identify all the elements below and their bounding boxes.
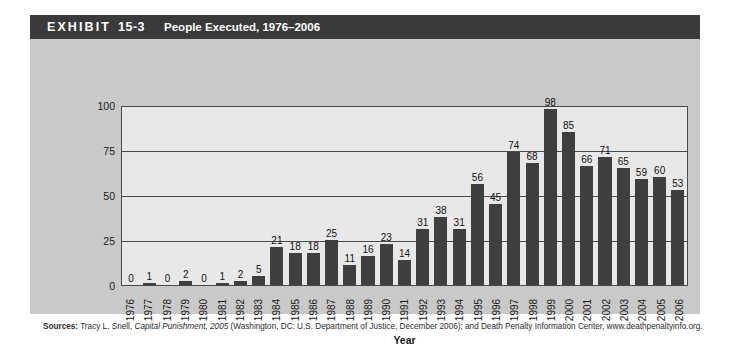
exhibit-number: 15-3 [118, 20, 145, 34]
bar[interactable] [398, 260, 411, 285]
y-axis-ticks: 0255075100 [85, 106, 115, 286]
bar[interactable] [453, 229, 466, 285]
bar[interactable] [270, 247, 283, 285]
bar-value-label: 14 [399, 248, 410, 259]
bar[interactable] [507, 152, 520, 285]
bar-slot: 0 [122, 107, 140, 285]
bar-slot: 1 [140, 107, 158, 285]
bar-slot: 2 [177, 107, 195, 285]
bar[interactable] [562, 132, 575, 285]
bar[interactable] [307, 253, 320, 285]
bar[interactable] [635, 179, 648, 285]
bar-slot: 60 [651, 107, 669, 285]
bar[interactable] [653, 177, 666, 285]
bar-value-label: 66 [581, 154, 592, 165]
bar-value-label: 23 [381, 232, 392, 243]
bar-value-label: 65 [618, 156, 629, 167]
bar-value-label: 85 [563, 120, 574, 131]
bar-slot: 71 [596, 107, 614, 285]
bar-slot: 23 [377, 107, 395, 285]
bar[interactable] [434, 217, 447, 285]
bar-value-label: 0 [128, 273, 134, 284]
bar-value-label: 18 [308, 241, 319, 252]
bar[interactable] [526, 163, 539, 285]
exhibit-header-bar: EXHIBIT 15-3 People Executed, 1976–2006 [30, 15, 700, 39]
bar-slot: 16 [359, 107, 377, 285]
plot-area: 0102012521181825111623143138315645746898… [121, 106, 688, 286]
source-text-after: (Washington, DC: U.S. Department of Just… [228, 322, 702, 331]
bar-slot: 21 [268, 107, 286, 285]
bar[interactable] [289, 253, 302, 285]
bar-value-label: 1 [219, 271, 225, 282]
bar[interactable] [544, 109, 557, 285]
y-tick-label: 100 [85, 100, 115, 112]
figure-panel: Number of executions 0255075100 01020125… [30, 39, 700, 314]
bar[interactable] [671, 190, 684, 285]
bar-value-label: 0 [165, 273, 171, 284]
exhibit-title: People Executed, 1976–2006 [164, 21, 320, 33]
bar-chart: Number of executions 0255075100 01020125… [73, 106, 690, 351]
bar-value-label: 1 [147, 271, 153, 282]
bar-slot: 31 [414, 107, 432, 285]
y-tick-label: 50 [85, 190, 115, 202]
bar[interactable] [489, 204, 502, 285]
bar-slot: 2 [231, 107, 249, 285]
bar-value-label: 45 [490, 192, 501, 203]
bar-value-label: 71 [599, 145, 610, 156]
source-label: Sources: [43, 322, 78, 331]
bar-slot: 45 [487, 107, 505, 285]
bar-slot: 18 [286, 107, 304, 285]
bar-slot: 68 [523, 107, 541, 285]
bar[interactable] [343, 265, 356, 285]
bar-value-label: 59 [636, 167, 647, 178]
bar[interactable] [580, 166, 593, 285]
bar[interactable] [234, 281, 247, 285]
bar-slot: 14 [395, 107, 413, 285]
bar-slot: 56 [468, 107, 486, 285]
bar[interactable] [143, 283, 156, 285]
bar-value-label: 56 [472, 172, 483, 183]
bar[interactable] [416, 229, 429, 285]
source-text-before: Tracy L. Snell, [78, 322, 134, 331]
bar-value-label: 18 [290, 241, 301, 252]
bar-slot: 5 [250, 107, 268, 285]
x-axis-title: Year [121, 334, 688, 346]
bar-value-label: 38 [435, 205, 446, 216]
bar[interactable] [617, 168, 630, 285]
bar-slot: 0 [158, 107, 176, 285]
bar-slot: 98 [541, 107, 559, 285]
bars-layer: 0102012521181825111623143138315645746898… [122, 107, 687, 285]
y-tick-label: 0 [85, 280, 115, 292]
bar-value-label: 53 [672, 178, 683, 189]
y-tick-label: 75 [85, 145, 115, 157]
bar[interactable] [216, 283, 229, 285]
exhibit-label: EXHIBIT [47, 20, 111, 34]
bar-slot: 1 [213, 107, 231, 285]
bar-value-label: 68 [527, 151, 538, 162]
bar-value-label: 0 [201, 273, 207, 284]
bar[interactable] [361, 256, 374, 285]
bar-value-label: 16 [362, 244, 373, 255]
bar-slot: 74 [505, 107, 523, 285]
bar-slot: 18 [304, 107, 322, 285]
bar-slot: 31 [450, 107, 468, 285]
bar-value-label: 11 [345, 253, 355, 264]
bar-value-label: 31 [454, 217, 465, 228]
bar-value-label: 98 [545, 97, 556, 108]
bar[interactable] [325, 240, 338, 285]
bar-value-label: 31 [417, 217, 428, 228]
bar-slot: 85 [559, 107, 577, 285]
bar[interactable] [598, 157, 611, 285]
bar-slot: 65 [614, 107, 632, 285]
bar-value-label: 60 [654, 165, 665, 176]
bar[interactable] [380, 244, 393, 285]
y-tick-label: 25 [85, 235, 115, 247]
bar[interactable] [179, 281, 192, 285]
bar[interactable] [471, 184, 484, 285]
bar-value-label: 74 [508, 140, 519, 151]
bar-slot: 38 [432, 107, 450, 285]
bar-value-label: 2 [238, 269, 244, 280]
bar[interactable] [252, 276, 265, 285]
bar-slot: 0 [195, 107, 213, 285]
source-note: Sources: Tracy L. Snell, Capital Punishm… [43, 322, 703, 331]
